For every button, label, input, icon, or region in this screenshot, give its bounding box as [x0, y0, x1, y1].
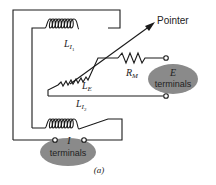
- i-terminals-label: terminals: [50, 148, 87, 158]
- i-terminal-left[interactable]: [53, 138, 58, 143]
- coil-li1-icon: [32, 19, 79, 128]
- figure-caption: (a): [94, 165, 105, 175]
- electrodynamometer-diagram: Pointer LI1 LE RM LI2 E terminals I term…: [0, 0, 216, 185]
- e-terminal-top[interactable]: [164, 56, 169, 61]
- li2-label: LI2: [75, 98, 87, 112]
- pointer-needle: [70, 26, 150, 84]
- pointer-arrowhead-icon: [145, 22, 155, 31]
- e-terminals-symbol: E: [169, 67, 176, 78]
- i-terminal-right[interactable]: [82, 138, 87, 143]
- li1-label: LI1: [63, 38, 75, 52]
- rm-label: RM: [125, 67, 139, 80]
- le-label: LE: [81, 80, 93, 93]
- e-terminal-bottom[interactable]: [164, 94, 169, 99]
- e-terminals-label: terminals: [155, 79, 192, 89]
- resistor-rm-icon: [118, 53, 163, 63]
- coil-li2-icon: [32, 119, 122, 140]
- i-terminals-symbol: I: [66, 135, 71, 146]
- pointer-label: Pointer: [157, 15, 189, 26]
